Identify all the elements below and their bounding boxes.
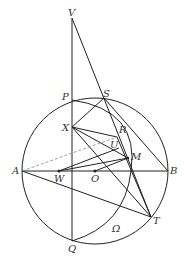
point-m	[127, 157, 129, 159]
line-wu	[59, 148, 119, 171]
line-at	[22, 171, 151, 217]
label-o: O	[91, 173, 99, 184]
line-sx	[72, 98, 104, 127]
label-a: A	[11, 165, 19, 176]
line-rt	[117, 137, 151, 217]
label-b: B	[169, 165, 177, 176]
label-p: P	[61, 91, 69, 102]
line-xr	[72, 127, 117, 137]
line-om	[95, 158, 128, 171]
label-w: W	[54, 173, 65, 184]
label-q: Q	[68, 243, 76, 254]
label-s: S	[103, 88, 110, 99]
line-wm	[59, 158, 128, 171]
label-omega: Ω	[111, 223, 120, 234]
label-u: U	[110, 139, 119, 150]
label-m: M	[130, 151, 142, 162]
diagram-canvas: V P S X R U M A W O B T Q Ω	[0, 0, 184, 265]
label-r: R	[118, 124, 127, 135]
line-vt	[72, 18, 151, 217]
label-v: V	[68, 7, 77, 18]
label-t: T	[153, 215, 161, 226]
geometry-diagram: V P S X R U M A W O B T Q Ω	[0, 0, 184, 265]
label-x: X	[61, 122, 70, 133]
